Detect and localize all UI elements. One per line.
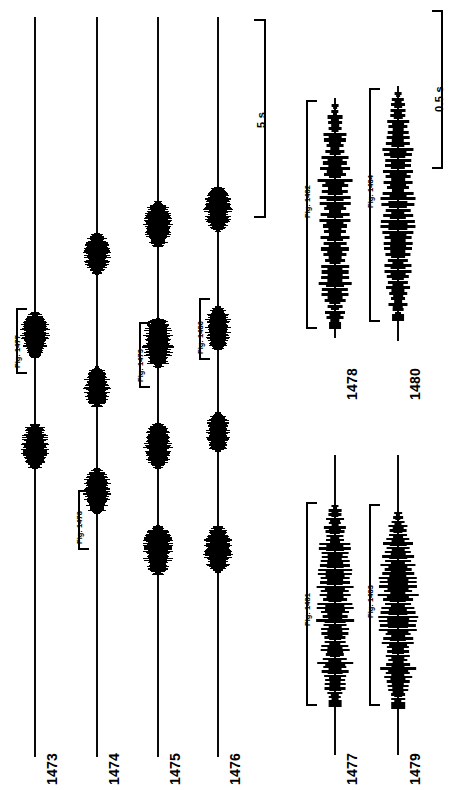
trace-number-1474: 1474 [107, 753, 121, 785]
callout-label-1483: Fig. 1483 [367, 585, 375, 618]
terminal-spike [391, 702, 405, 709]
callout-label-1480: Fig. 1480 [197, 321, 205, 354]
oscillogram-1479 [382, 512, 414, 702]
terminal-spike [329, 322, 341, 329]
callout-label-1482: Fig. 1482 [304, 185, 312, 218]
trace-number-1480: 1480 [408, 368, 422, 400]
oscillogram-1477 [320, 505, 350, 700]
scale-bar-half-second-label: 0.5 s [434, 86, 445, 112]
scale-bar-5s-label: 5 s [256, 112, 267, 128]
callout-label-1477: Fig. 1477 [14, 335, 22, 368]
callout-label-1479: Fig. 1479 [137, 349, 145, 382]
trace-number-1476: 1476 [228, 753, 242, 785]
trace-baseline-1473 [34, 17, 36, 757]
trace-number-1473: 1473 [45, 753, 59, 785]
callout-label-1478: Fig. 1478 [76, 511, 84, 544]
oscillogram-1480 [384, 92, 412, 314]
terminal-spike [392, 314, 404, 321]
callout-label-1481: Fig. 1481 [304, 593, 312, 626]
trace-number-1475: 1475 [168, 753, 182, 785]
oscillogram-1478 [321, 104, 349, 322]
trace-number-1477: 1477 [345, 753, 359, 785]
trace-number-1478: 1478 [345, 368, 359, 400]
trace-baseline-1475 [157, 17, 159, 757]
trace-number-1479: 1479 [408, 753, 422, 785]
figure-plate: 1473 1474 1475 1476 Fig. 1477 Fig. 1478 … [0, 0, 449, 790]
terminal-spike [329, 700, 342, 707]
callout-label-1484: Fig. 1484 [367, 175, 375, 208]
trace-baseline-1476 [217, 17, 219, 757]
